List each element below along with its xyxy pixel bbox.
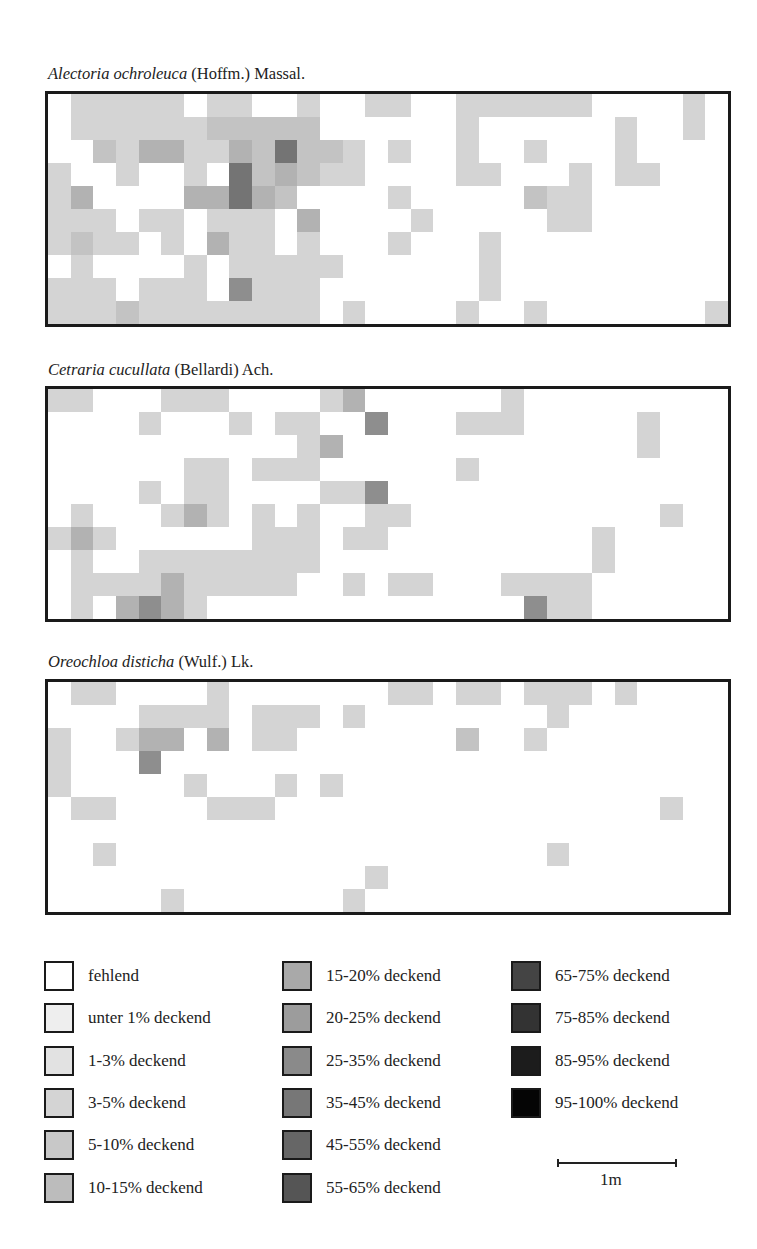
legend-item: unter 1% deckend bbox=[44, 997, 211, 1039]
grid-cell bbox=[411, 186, 434, 209]
grid-cell bbox=[547, 209, 570, 232]
grid-cell bbox=[116, 573, 139, 596]
grid-cell bbox=[365, 797, 388, 820]
grid-cell bbox=[683, 573, 706, 596]
grid-cell bbox=[569, 596, 592, 619]
grid-cell bbox=[388, 232, 411, 255]
grid-cell bbox=[547, 527, 570, 550]
grid-cell bbox=[637, 278, 660, 301]
legend-swatch bbox=[44, 1003, 74, 1033]
grid-cell bbox=[161, 389, 184, 412]
grid-cell bbox=[161, 117, 184, 140]
grid-cell bbox=[433, 797, 456, 820]
grid-cell bbox=[71, 186, 94, 209]
grid-cell bbox=[524, 843, 547, 866]
grid-cell bbox=[365, 458, 388, 481]
grid-cell bbox=[139, 889, 162, 912]
grid-cell bbox=[93, 820, 116, 843]
grid-cell bbox=[411, 728, 434, 751]
grid-cell bbox=[116, 186, 139, 209]
grid-cell bbox=[479, 435, 502, 458]
grid-cell bbox=[705, 458, 728, 481]
grid-cell bbox=[683, 389, 706, 412]
grid-cell bbox=[116, 209, 139, 232]
legend-column-3: 65-75% deckend 75-85% deckend 85-95% dec… bbox=[511, 955, 678, 1124]
grid-cell bbox=[456, 843, 479, 866]
grid-cell bbox=[184, 232, 207, 255]
grid-cell bbox=[592, 481, 615, 504]
grid-cell bbox=[388, 209, 411, 232]
grid-cell bbox=[365, 573, 388, 596]
grid-cell bbox=[411, 751, 434, 774]
grid-cell bbox=[683, 481, 706, 504]
grid-cell bbox=[139, 866, 162, 889]
grid-cell bbox=[365, 117, 388, 140]
grid-cell bbox=[252, 527, 275, 550]
grid-cell bbox=[184, 573, 207, 596]
grid-cell bbox=[320, 163, 343, 186]
grid-cell bbox=[569, 889, 592, 912]
grid-cell bbox=[365, 843, 388, 866]
grid-cell bbox=[343, 889, 366, 912]
grid-cell bbox=[48, 550, 71, 573]
grid-cell bbox=[433, 527, 456, 550]
grid-cell bbox=[365, 186, 388, 209]
grid-cell bbox=[547, 117, 570, 140]
grid-cell bbox=[71, 481, 94, 504]
grid-cell bbox=[388, 140, 411, 163]
grid-cell bbox=[660, 820, 683, 843]
species-name: Cetraria cucullata bbox=[48, 360, 170, 379]
grid-cell bbox=[229, 843, 252, 866]
grid-cell bbox=[229, 596, 252, 619]
grid-cell bbox=[184, 682, 207, 705]
grid-cell bbox=[501, 301, 524, 324]
grid-cell bbox=[456, 163, 479, 186]
grid-cell bbox=[705, 728, 728, 751]
grid-cell bbox=[184, 412, 207, 435]
grid-cell bbox=[660, 596, 683, 619]
grid-cell bbox=[524, 797, 547, 820]
grid-cell bbox=[229, 117, 252, 140]
grid-cell bbox=[433, 389, 456, 412]
grid-cell bbox=[275, 774, 298, 797]
grid-cell bbox=[116, 435, 139, 458]
grid-cell bbox=[139, 596, 162, 619]
grid-cell bbox=[229, 255, 252, 278]
grid-cell bbox=[705, 751, 728, 774]
grid-cell bbox=[479, 255, 502, 278]
legend-item: 15-20% deckend bbox=[282, 955, 441, 997]
grid-cell bbox=[637, 682, 660, 705]
grid-cell bbox=[343, 573, 366, 596]
grid-cell bbox=[547, 232, 570, 255]
grid-cell bbox=[456, 728, 479, 751]
grid-cell bbox=[184, 504, 207, 527]
grid-cell bbox=[275, 209, 298, 232]
grid-cell bbox=[229, 412, 252, 435]
legend-item: 10-15% deckend bbox=[44, 1166, 211, 1208]
grid-cell bbox=[637, 163, 660, 186]
grid-cell bbox=[48, 843, 71, 866]
grid-cell bbox=[479, 843, 502, 866]
species-name: Alectoria ochroleuca bbox=[48, 64, 187, 83]
grid-cell bbox=[456, 301, 479, 324]
grid-cell bbox=[501, 751, 524, 774]
grid-cell bbox=[139, 504, 162, 527]
grid-cell bbox=[660, 550, 683, 573]
grid-cell bbox=[524, 412, 547, 435]
grid-cell bbox=[297, 117, 320, 140]
grid-cell bbox=[660, 866, 683, 889]
grid-cell bbox=[365, 435, 388, 458]
grid-cell bbox=[365, 889, 388, 912]
grid-cell bbox=[501, 278, 524, 301]
grid-cell bbox=[388, 866, 411, 889]
grid-cell bbox=[184, 527, 207, 550]
grid-cell bbox=[161, 209, 184, 232]
grid-cell bbox=[433, 412, 456, 435]
grid-cell bbox=[139, 117, 162, 140]
grid-cell bbox=[365, 751, 388, 774]
grid-cell bbox=[71, 94, 94, 117]
grid-cell bbox=[592, 527, 615, 550]
grid-cell bbox=[116, 140, 139, 163]
grid-cell bbox=[48, 458, 71, 481]
grid-cell bbox=[93, 550, 116, 573]
